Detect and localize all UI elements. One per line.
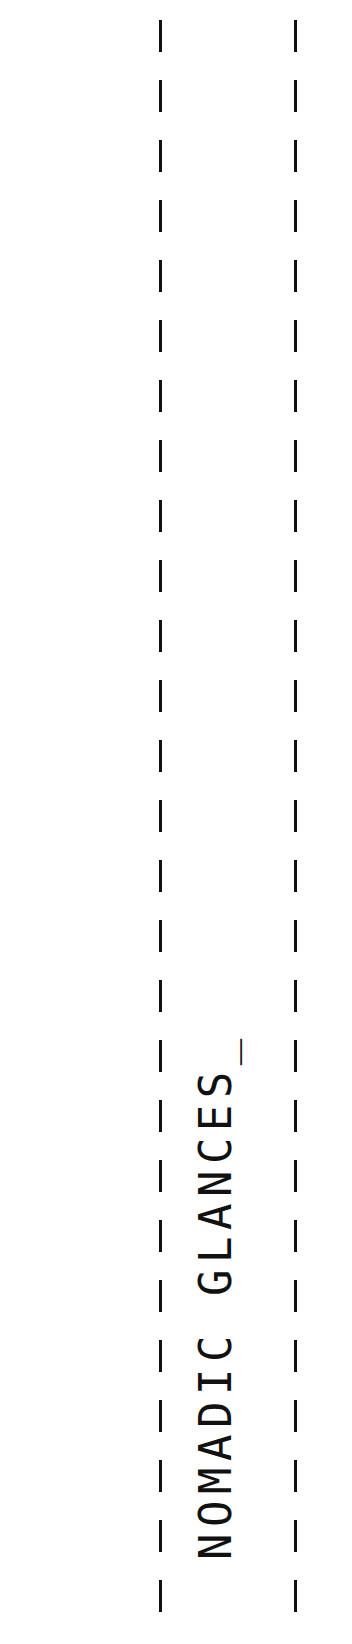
site-title[interactable]: NOMADIC GLANCES_ — [197, 1008, 235, 1560]
title-container: NOMADIC GLANCES_ — [197, 1008, 235, 1560]
dashed-line-left — [159, 20, 162, 1624]
dashed-line-right — [294, 20, 297, 1624]
